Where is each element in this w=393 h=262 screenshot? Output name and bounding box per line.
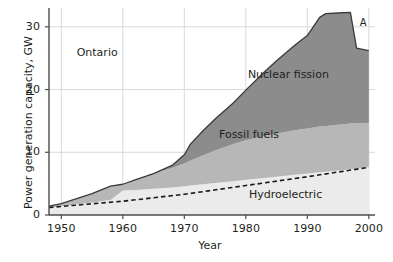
x-tick-label-1970: 1970 [162,222,206,235]
y-tick-label-30: 30 [14,20,40,33]
stacked-area-bands [49,12,369,215]
x-tick-label-2000: 2000 [347,222,391,235]
x-tick-label-1950: 1950 [39,222,83,235]
y-tick-label-20: 20 [14,83,40,96]
x-tick-label-1960: 1960 [101,222,145,235]
region-label: Ontario [77,46,118,59]
annotation-label-a: A [360,17,367,28]
series-label-fossil: Fossil fuels [219,128,279,141]
y-tick-label-10: 10 [14,145,40,158]
x-tick-label-1990: 1990 [285,222,329,235]
series-label-nuclear: Nuclear fission [248,68,329,81]
x-tick-label-1980: 1980 [224,222,268,235]
y-tick-label-0: 0 [14,208,40,221]
chart-figure: Power generation capacity, GW Year 0 10 … [0,0,393,262]
series-label-hydro: Hydroelectric [249,188,322,201]
x-axis-title: Year [150,239,270,252]
y-axis-title: Power generation capacity, GW [22,33,35,213]
